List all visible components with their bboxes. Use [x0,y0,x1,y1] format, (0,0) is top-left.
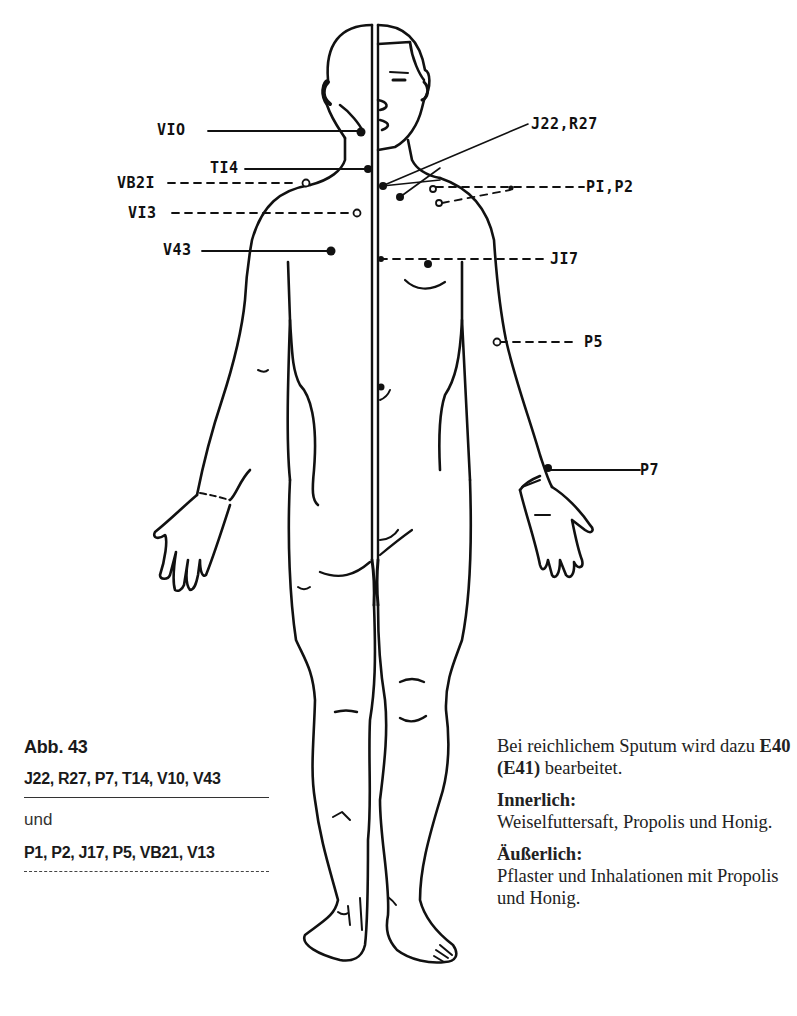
treatment-notes: Bei reichlichem Sputum wird dazu E40 (E4… [497,735,797,919]
label-p1-p2: PI,P2 [586,180,634,195]
external-heading: Äußerlich: [497,843,797,865]
sputum-note: Bei reichlichem Sputum wird dazu E40 (E4… [497,735,797,779]
internal-section: Innerlich:Weiselfuttersaft, Propolis und… [497,789,797,833]
internal-heading: Innerlich: [497,789,797,811]
label-vi3: VI3 [128,206,157,221]
label-j22-r27: J22,R27 [531,117,598,132]
label-p7: P7 [640,463,659,478]
figure-number: Abb. 43 [24,737,269,758]
label-vb21: VB2I [117,176,155,191]
label-v10: VIO [157,123,186,138]
conjunction-text: und [24,810,269,830]
secondary-points-list: P1, P2, J17, P5, VB21, V13 [24,844,269,872]
label-j17: JI7 [550,252,579,267]
sputum-text: Bei reichlichem Sputum wird dazu [497,736,760,756]
label-v43: V43 [163,243,192,258]
external-section: Äußerlich:Pflaster und Inhalationen mit … [497,843,797,909]
figure-caption: Abb. 43 J22, R27, P7, T14, V10, V43 und … [24,737,269,872]
primary-points-list: J22, R27, P7, T14, V10, V43 [24,770,269,798]
label-ti4: TI4 [210,161,239,176]
sputum-text-end: bearbeitet. [540,758,622,778]
internal-text: Weiselfuttersaft, Propolis und Honig. [497,812,772,832]
label-p5: P5 [584,335,603,350]
external-text: Pflaster und Inhalationen mit Propolis u… [497,866,779,908]
